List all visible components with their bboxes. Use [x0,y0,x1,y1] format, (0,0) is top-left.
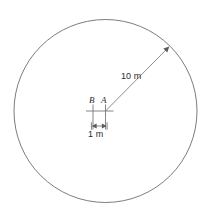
dimension-arrowhead-right-icon [102,123,107,128]
figure-canvas: B A 10 m 1 m [0,0,205,220]
point-a-label: A [101,96,107,105]
diagram-svg [0,0,205,220]
separation-label: 1 m [88,130,103,139]
radius-label: 10 m [121,72,141,81]
point-b-label: B [89,96,95,105]
dimension-arrowhead-left-icon [92,123,97,128]
